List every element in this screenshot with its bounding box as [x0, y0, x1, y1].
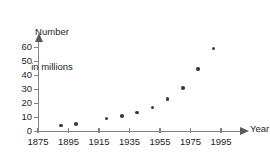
data-point [59, 124, 63, 128]
data-point [135, 111, 139, 115]
plot-area: 0102030405060 18751895191519351955197519… [0, 0, 270, 159]
x-tick-1875 [37, 128, 38, 133]
x-tick-label-1995: 1995 [204, 136, 238, 147]
y-tick-label-50: 50 [10, 56, 32, 66]
y-axis-line [38, 42, 39, 132]
y-tick-label-30: 30 [10, 84, 32, 94]
x-tick-1915 [98, 128, 99, 133]
x-tick-label-1875: 1875 [21, 136, 55, 147]
data-point [196, 67, 200, 71]
x-tick-1955 [159, 128, 160, 133]
y-tick-label-40: 40 [10, 70, 32, 80]
x-tick-1975 [190, 128, 191, 133]
y-tick-10 [34, 117, 39, 118]
data-point [181, 86, 185, 90]
x-axis-arrow-icon [240, 127, 249, 135]
scatter-chart: Number in millions 0102030405060 1875189… [0, 0, 270, 159]
x-axis-title: Year [250, 123, 269, 134]
data-point [105, 117, 109, 121]
y-tick-50 [34, 61, 39, 62]
data-point [166, 97, 170, 101]
y-tick-20 [34, 103, 39, 104]
y-tick-label-10: 10 [10, 112, 32, 122]
x-tick-label-1935: 1935 [113, 136, 147, 147]
y-tick-60 [34, 47, 39, 48]
x-tick-1895 [68, 128, 69, 133]
data-point [120, 114, 124, 118]
y-tick-40 [34, 75, 39, 76]
data-point [74, 122, 78, 126]
x-tick-label-1895: 1895 [52, 136, 86, 147]
y-tick-30 [34, 89, 39, 90]
x-tick-label-1955: 1955 [143, 136, 177, 147]
y-tick-label-20: 20 [10, 98, 32, 108]
x-tick-1935 [129, 128, 130, 133]
data-point [212, 47, 216, 51]
x-tick-label-1975: 1975 [174, 136, 208, 147]
data-point [151, 106, 155, 110]
x-tick-1995 [220, 128, 221, 133]
y-axis-arrow-icon [35, 33, 43, 42]
y-tick-label-0: 0 [10, 126, 32, 136]
x-tick-label-1915: 1915 [82, 136, 116, 147]
y-tick-label-60: 60 [10, 42, 32, 52]
